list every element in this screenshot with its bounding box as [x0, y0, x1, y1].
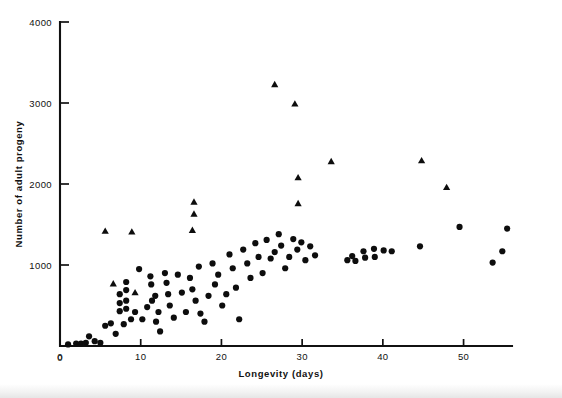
data-point-triangle — [291, 100, 298, 106]
y-tick-label-0: 0 — [57, 352, 63, 363]
data-point-circle — [183, 309, 189, 315]
y-axis-tick-labels: 01000200030004000 — [29, 17, 63, 364]
data-point-circle — [360, 248, 366, 254]
data-point-circle — [307, 243, 313, 249]
data-point-circle — [381, 247, 387, 253]
data-point-circle — [171, 315, 177, 321]
data-point-triangle — [295, 200, 302, 206]
data-point-circle — [276, 231, 282, 237]
x-tick-label-40: 40 — [377, 351, 388, 362]
data-point-circle — [244, 260, 250, 266]
data-point-circle — [247, 275, 253, 281]
data-point-circle — [201, 319, 207, 325]
data-point-circle — [175, 272, 181, 278]
data-point-triangle — [190, 198, 197, 204]
data-point-circle — [187, 275, 193, 281]
data-point-circle — [83, 340, 89, 346]
data-point-circle — [259, 270, 265, 276]
data-series-triangles — [102, 81, 451, 296]
y-tick-label-4000: 4000 — [29, 17, 52, 28]
data-point-circle — [123, 279, 129, 285]
data-point-triangle — [189, 227, 196, 233]
data-point-circle — [193, 298, 199, 304]
data-point-circle — [490, 259, 496, 265]
data-point-circle — [352, 258, 358, 264]
axis-lines — [60, 22, 512, 346]
y-tick-label-1000: 1000 — [29, 260, 52, 271]
data-point-circle — [117, 308, 123, 314]
data-point-triangle — [271, 81, 278, 87]
data-point-circle — [298, 239, 304, 245]
data-point-triangle — [131, 289, 138, 295]
data-point-circle — [113, 331, 119, 337]
data-point-circle — [163, 280, 169, 286]
data-point-circle — [212, 281, 218, 287]
data-point-triangle — [128, 228, 135, 234]
data-point-triangle — [443, 184, 450, 190]
data-point-circle — [372, 254, 378, 260]
data-point-circle — [389, 248, 395, 254]
y-axis-ticks — [60, 22, 69, 265]
data-point-circle — [179, 289, 185, 295]
data-point-circle — [136, 266, 142, 272]
y-axis-title: Number of adult progeny — [13, 121, 24, 248]
data-point-circle — [196, 264, 202, 270]
data-point-circle — [117, 291, 123, 297]
data-point-circle — [264, 237, 270, 243]
data-point-circle — [240, 247, 246, 253]
data-point-circle — [153, 319, 159, 325]
x-tick-label-30: 30 — [296, 351, 307, 362]
data-point-circle — [117, 300, 123, 306]
data-point-circle — [209, 260, 215, 266]
data-point-circle — [155, 309, 161, 315]
data-point-circle — [157, 328, 163, 334]
data-point-triangle — [190, 210, 197, 216]
data-point-circle — [417, 243, 423, 249]
data-point-circle — [282, 265, 288, 271]
data-point-circle — [139, 316, 145, 322]
data-point-circle — [97, 340, 103, 346]
data-point-circle — [123, 306, 129, 312]
data-point-circle — [148, 281, 154, 287]
data-point-circle — [102, 323, 108, 329]
data-point-circle — [123, 298, 129, 304]
data-point-circle — [294, 247, 300, 253]
data-series-circles — [65, 224, 510, 348]
data-point-triangle — [102, 227, 109, 233]
data-point-circle — [302, 257, 308, 263]
data-point-circle — [189, 286, 195, 292]
data-point-triangle — [295, 174, 302, 180]
y-tick-label-3000: 3000 — [29, 98, 52, 109]
data-point-circle — [108, 320, 114, 326]
data-point-circle — [147, 273, 153, 279]
data-point-circle — [123, 287, 129, 293]
data-point-circle — [121, 321, 127, 327]
data-point-triangle — [418, 157, 425, 163]
data-point-triangle — [328, 158, 335, 164]
data-point-circle — [362, 255, 368, 261]
data-point-circle — [197, 311, 203, 317]
data-point-circle — [128, 316, 134, 322]
data-point-circle — [219, 302, 225, 308]
data-point-circle — [132, 309, 138, 315]
scatter-plot-figure: 01020304050 01000200030004000 Longevity … — [0, 0, 562, 398]
data-point-circle — [456, 224, 462, 230]
data-point-circle — [286, 254, 292, 260]
data-point-circle — [504, 225, 510, 231]
x-tick-label-10: 10 — [135, 351, 146, 362]
x-tick-label-20: 20 — [216, 351, 227, 362]
y-tick-label-2000: 2000 — [29, 179, 52, 190]
data-point-circle — [278, 242, 284, 248]
data-point-circle — [272, 249, 278, 255]
plot-canvas: 01020304050 01000200030004000 Longevity … — [0, 0, 562, 398]
data-point-circle — [233, 285, 239, 291]
data-point-circle — [162, 270, 168, 276]
data-point-circle — [255, 254, 261, 260]
data-point-circle — [290, 236, 296, 242]
x-axis-title: Longevity (days) — [238, 368, 323, 379]
data-point-circle — [205, 293, 211, 299]
data-point-circle — [499, 248, 505, 254]
axes-group: 01020304050 01000200030004000 — [29, 17, 512, 364]
data-point-circle — [268, 255, 274, 261]
data-point-circle — [144, 304, 150, 310]
